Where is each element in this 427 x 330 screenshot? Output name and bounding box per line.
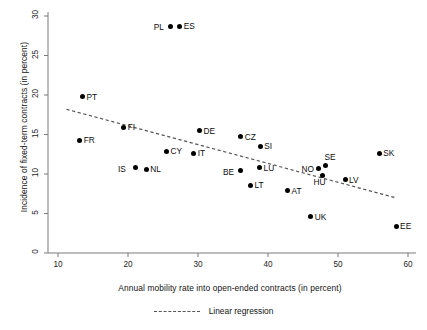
- x-tick-label-50: 50: [327, 260, 349, 269]
- data-point-fr: [77, 138, 82, 143]
- data-point-label-sk: SK: [383, 149, 394, 158]
- data-point-label-pt: PT: [87, 93, 98, 102]
- data-point-label-cz: CZ: [245, 133, 256, 142]
- data-point-label-ee: EE: [400, 222, 411, 231]
- data-point-label-fi: FI: [128, 123, 135, 132]
- data-point-label-no: NO: [301, 165, 313, 174]
- y-tick-label-20: 20: [31, 85, 40, 103]
- data-point-label-is: IS: [118, 165, 126, 174]
- data-point-label-se: SE: [324, 153, 335, 162]
- data-point-label-uk: UK: [315, 213, 327, 222]
- regression-line: [66, 109, 395, 197]
- data-point-label-cy: CY: [171, 147, 183, 156]
- data-point-label-si: SI: [264, 142, 272, 151]
- legend-dashed-line-swatch: [154, 311, 200, 312]
- data-point-label-be: BE: [223, 168, 234, 177]
- scatter-chart-figure: Incidence of fixed-term contracts (in pe…: [0, 0, 427, 330]
- data-point-pl: [168, 24, 173, 29]
- data-point-label-lu: LU: [264, 164, 275, 173]
- y-tick-label-5: 5: [31, 203, 40, 221]
- data-point-se: [323, 163, 328, 168]
- plot-canvas: [0, 0, 427, 330]
- x-tick-label-20: 20: [117, 260, 139, 269]
- y-tick-label-25: 25: [31, 45, 40, 63]
- x-axis-label: Annual mobility rate into open-ended con…: [45, 283, 415, 293]
- y-tick-label-15: 15: [31, 124, 40, 142]
- data-point-lv: [343, 177, 348, 182]
- y-tick-label-30: 30: [31, 6, 40, 24]
- data-point-is: [133, 165, 138, 170]
- data-point-ee: [394, 224, 399, 229]
- y-tick-label-10: 10: [31, 164, 40, 182]
- data-point-label-at: AT: [292, 187, 302, 196]
- data-point-label-hu: HU: [314, 178, 326, 187]
- data-point-be: [238, 168, 243, 173]
- data-point-de: [197, 128, 202, 133]
- data-point-label-lt: LT: [255, 181, 264, 190]
- chart-legend: Linear regression: [0, 306, 427, 316]
- data-point-label-it: IT: [198, 149, 205, 158]
- data-point-si: [258, 144, 263, 149]
- data-point-label-nl: NL: [150, 165, 161, 174]
- data-point-lt: [248, 183, 253, 188]
- data-point-label-pl: PL: [154, 23, 164, 32]
- data-point-label-fr: FR: [84, 136, 95, 145]
- y-tick-label-0: 0: [31, 243, 40, 261]
- data-point-no: [316, 166, 321, 171]
- data-point-cy: [164, 149, 169, 154]
- x-tick-label-10: 10: [47, 260, 69, 269]
- data-point-label-lv: LV: [349, 176, 359, 185]
- x-tick-label-40: 40: [257, 260, 279, 269]
- x-tick-label-60: 60: [397, 260, 419, 269]
- data-point-sk: [377, 151, 382, 156]
- x-tick-label-30: 30: [187, 260, 209, 269]
- legend-label-linear-regression: Linear regression: [209, 306, 274, 316]
- data-point-label-es: ES: [184, 22, 195, 31]
- data-point-nl: [144, 167, 149, 172]
- data-point-label-de: DE: [203, 127, 215, 136]
